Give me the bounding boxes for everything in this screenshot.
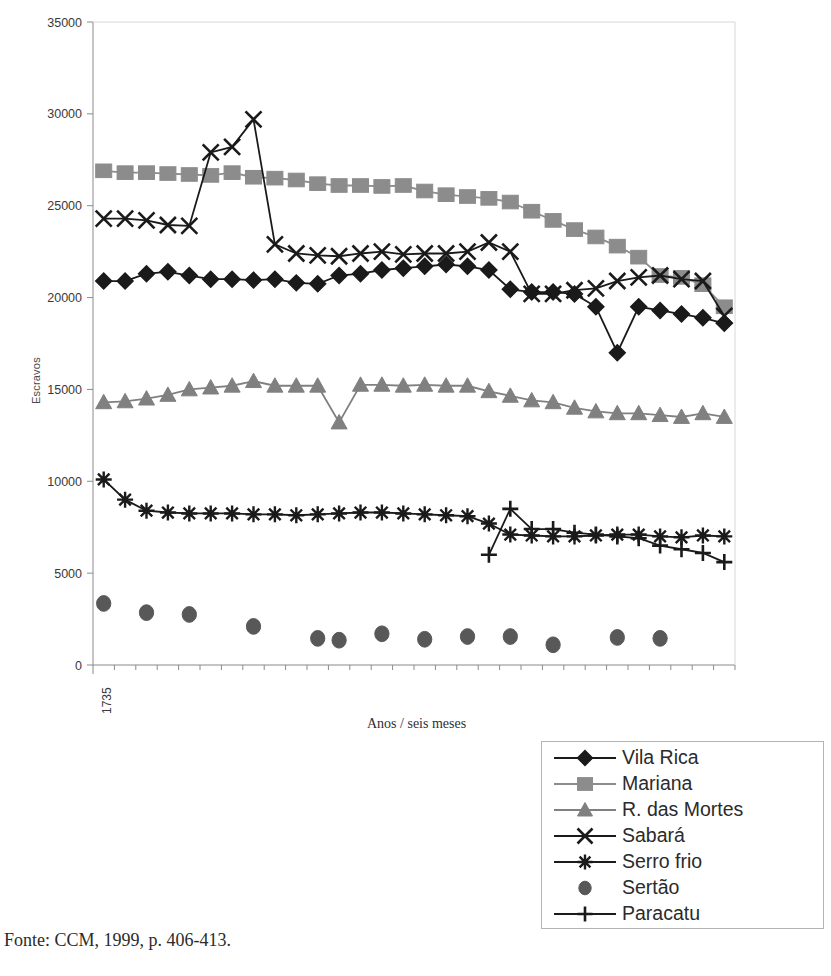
data-point-square <box>267 171 283 185</box>
data-point-square <box>160 167 176 181</box>
legend-label: Vila Rica <box>622 748 699 768</box>
data-point-circle <box>460 629 474 645</box>
chart-legend: Vila RicaMarianaR. das MortesSabaráSerro… <box>541 741 824 929</box>
data-point-diamond <box>695 310 711 326</box>
data-point-triangle <box>695 405 711 419</box>
data-point-star <box>96 471 112 487</box>
plus-marker <box>652 538 668 554</box>
square-marker <box>139 166 155 180</box>
data-point-diamond <box>374 262 390 278</box>
data-point-circle <box>97 596 111 612</box>
legend-item-vila-rica[interactable]: Vila Rica <box>542 745 823 771</box>
data-point-square <box>117 166 133 180</box>
data-point-triangle <box>331 414 347 428</box>
data-point-square <box>139 166 155 180</box>
x-marker <box>502 244 518 260</box>
circle-marker <box>653 630 667 646</box>
legend-item-sert-o[interactable]: Sertão <box>542 875 823 901</box>
data-point-diamond <box>567 286 583 302</box>
square-marker <box>246 170 262 184</box>
data-point-square <box>417 184 433 198</box>
legend-label: Mariana <box>622 774 692 794</box>
data-point-square <box>374 180 390 194</box>
diamond-marker <box>160 264 176 280</box>
data-point-star <box>288 507 304 523</box>
star-marker <box>310 506 326 522</box>
legend-symbol-triangle-icon <box>548 798 622 822</box>
data-point-star <box>181 505 197 521</box>
data-point-diamond <box>117 273 133 289</box>
legend-item-mariana[interactable]: Mariana <box>542 771 823 797</box>
series-r-das-mortes <box>96 373 733 429</box>
diamond-marker <box>117 273 133 289</box>
data-point-plus <box>578 907 593 922</box>
data-point-plus <box>716 554 732 570</box>
data-point-x <box>203 144 219 160</box>
data-point-x <box>267 236 283 252</box>
star-marker <box>288 507 304 523</box>
x-marker <box>267 236 283 252</box>
star-marker <box>695 527 711 543</box>
x-marker <box>224 139 240 155</box>
data-point-diamond <box>310 276 326 292</box>
data-point-star <box>246 506 262 522</box>
data-point-triangle <box>417 377 433 391</box>
y-axis-tick-label: 35000 <box>47 16 82 30</box>
data-point-star <box>438 507 454 523</box>
square-marker <box>438 188 454 202</box>
series-line <box>104 381 725 422</box>
circle-marker <box>375 626 389 642</box>
diamond-marker <box>267 271 283 287</box>
data-point-star <box>716 528 732 544</box>
triangle-marker <box>246 373 262 387</box>
data-point-x <box>246 111 262 127</box>
data-point-star <box>331 505 347 521</box>
square-marker <box>545 214 561 228</box>
star-marker <box>117 492 133 508</box>
data-point-star <box>578 855 593 870</box>
legend-item-r-das-mortes[interactable]: R. das Mortes <box>542 797 823 823</box>
square-marker <box>460 190 476 204</box>
diamond-marker <box>96 273 112 289</box>
square-marker <box>331 179 347 193</box>
data-point-plus <box>609 528 625 544</box>
circle-marker <box>610 630 624 646</box>
data-point-square <box>545 214 561 228</box>
y-axis-tick-label: 5000 <box>54 567 82 581</box>
star-marker <box>181 505 197 521</box>
data-point-square <box>631 250 647 264</box>
square-marker <box>417 184 433 198</box>
data-point-square <box>578 778 593 791</box>
data-point-diamond <box>588 299 604 315</box>
data-point-circle <box>139 605 153 621</box>
data-point-plus <box>652 538 668 554</box>
data-point-plus <box>545 521 561 537</box>
data-point-star <box>117 492 133 508</box>
data-point-square <box>460 190 476 204</box>
legend-item-sabar-[interactable]: Sabará <box>542 823 823 849</box>
diamond-marker <box>203 271 219 287</box>
legend-item-paracatu[interactable]: Paracatu <box>542 901 823 927</box>
data-point-diamond <box>353 266 369 282</box>
data-point-x <box>502 244 518 260</box>
legend-item-serro-frio[interactable]: Serro frio <box>542 849 823 875</box>
source-note: Fonte: CCM, 1999, p. 406-413. <box>4 930 231 951</box>
diamond-marker <box>374 262 390 278</box>
plus-marker <box>631 530 647 546</box>
diamond-marker <box>578 751 593 766</box>
data-point-star <box>160 505 176 521</box>
circle-marker <box>546 637 560 653</box>
circle-marker <box>139 605 153 621</box>
series-line <box>104 265 725 353</box>
plus-marker <box>481 547 497 563</box>
square-marker <box>160 167 176 181</box>
circle-marker <box>418 631 432 647</box>
data-point-plus <box>567 525 583 541</box>
star-marker <box>331 505 347 521</box>
series-line <box>104 171 725 307</box>
data-point-star <box>502 527 518 543</box>
data-point-square <box>395 179 411 193</box>
data-point-diamond <box>246 272 262 288</box>
x-axis-tick-label-1735: 1735 <box>100 687 114 714</box>
star-marker <box>203 505 219 521</box>
